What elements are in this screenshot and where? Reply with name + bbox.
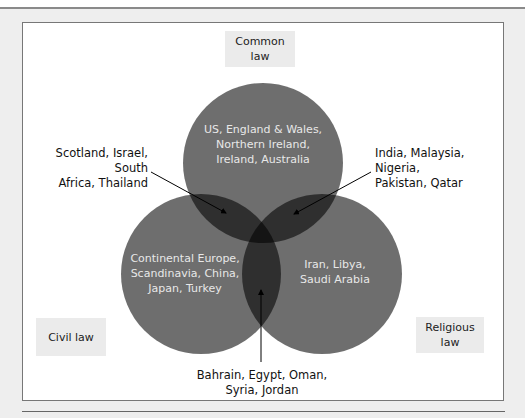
common-law-label: Common law bbox=[225, 31, 295, 67]
common-civil-callout: Scotland, Israel, South Africa, Thailand bbox=[28, 146, 148, 191]
civil-law-members: Continental Europe, Scandinavia, China, … bbox=[126, 251, 244, 296]
religious-law-label: Religious law bbox=[416, 317, 484, 353]
common-law-members: US, England & Wales, Northern Ireland, I… bbox=[203, 122, 323, 167]
common-religious-callout: India, Malaysia, Nigeria, Pakistan, Qata… bbox=[375, 146, 510, 191]
civil-religious-callout: Bahrain, Egypt, Oman, Syria, Jordan bbox=[196, 368, 328, 398]
civil-law-label: Civil law bbox=[36, 318, 106, 356]
religious-law-members: Iran, Libya, Saudi Arabia bbox=[290, 257, 380, 287]
